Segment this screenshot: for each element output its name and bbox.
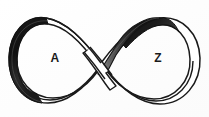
mobius-band-svg: A Z <box>0 0 209 117</box>
figure-root: A Z <box>0 0 209 117</box>
loop-label-z: Z <box>154 51 162 65</box>
loop-label-a: A <box>51 51 60 65</box>
